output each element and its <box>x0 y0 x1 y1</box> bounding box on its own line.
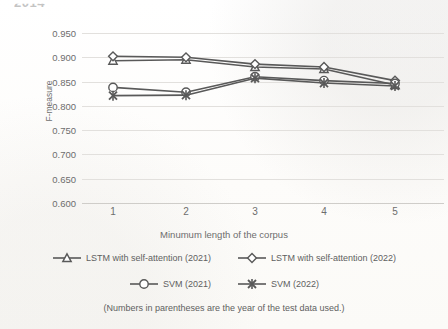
gridline <box>82 82 444 83</box>
circle-marker <box>251 73 259 81</box>
x-axis-tick-label: 3 <box>252 206 258 217</box>
x-axis-tick-label: 1 <box>110 206 116 217</box>
gridline <box>82 57 444 58</box>
gridline <box>82 179 444 180</box>
chart-footnote: (Numbers in parentheses are the year of … <box>0 303 448 313</box>
series-line <box>113 77 395 93</box>
y-axis-tick-label: 0.650 <box>28 173 76 184</box>
legend-row: LSTM with self-attention (2021)LSTM with… <box>0 252 448 264</box>
legend-item-lstm-2021[interactable]: LSTM with self-attention (2021) <box>52 252 211 264</box>
legend-label: LSTM with self-attention (2021) <box>86 254 211 263</box>
line-chart: 2014 F-measure 0.9500.9000.8500.8000.750… <box>0 0 448 329</box>
gridline <box>82 154 444 155</box>
triangle-marker <box>251 63 259 71</box>
x-axis-tick-label: 2 <box>183 206 189 217</box>
y-axis-tick-label: 0.850 <box>28 76 76 87</box>
diamond-marker <box>237 252 267 264</box>
triangle-marker <box>52 252 82 264</box>
circle-marker <box>109 83 117 91</box>
y-axis-tick-label: 0.600 <box>28 198 76 209</box>
series-line <box>113 56 395 80</box>
y-axis-tick-label: 0.900 <box>28 52 76 63</box>
circle-marker <box>140 280 148 288</box>
legend-row: SVM (2021)SVM (2022) <box>0 278 448 290</box>
diamond-marker <box>251 60 260 69</box>
y-axis-tick-label: 0.950 <box>28 28 76 39</box>
circle-marker <box>129 278 159 290</box>
y-axis-tick-label: 0.750 <box>28 125 76 136</box>
legend-item-lstm-2022[interactable]: LSTM with self-attention (2022) <box>237 252 396 264</box>
legend-label: SVM (2022) <box>271 280 319 289</box>
x-marker <box>109 91 117 101</box>
chart-legend: LSTM with self-attention (2021)LSTM with… <box>0 252 448 264</box>
y-axis-tick-label: 0.800 <box>28 100 76 111</box>
series-triangle <box>109 56 399 89</box>
series-circle <box>109 73 399 97</box>
cropped-header-text: 2014 <box>14 0 45 10</box>
y-axis-tick-label: 0.700 <box>28 149 76 160</box>
x-axis-title: Minumum length of the corpus <box>0 229 448 240</box>
gridline <box>82 203 444 204</box>
gridline <box>82 130 444 131</box>
legend-item-svm-2021[interactable]: SVM (2021) <box>129 278 211 290</box>
triangle-marker <box>320 65 328 73</box>
chart-legend-second-row: SVM (2021)SVM (2022) <box>0 278 448 290</box>
x-marker <box>320 78 328 88</box>
gridline <box>82 106 444 107</box>
circle-marker <box>391 79 399 87</box>
x-axis-tick-label: 5 <box>392 206 398 217</box>
x-marker <box>182 90 190 100</box>
legend-item-svm-2022[interactable]: SVM (2022) <box>237 278 319 290</box>
gridline <box>82 33 444 34</box>
x-marker <box>237 278 267 290</box>
diamond-marker <box>248 254 257 263</box>
x-axis-tick-label: 4 <box>321 206 327 217</box>
series-x <box>109 73 399 100</box>
legend-label: SVM (2021) <box>163 280 211 289</box>
circle-marker <box>182 88 190 96</box>
diamond-marker <box>320 63 329 72</box>
legend-label: LSTM with self-attention (2022) <box>271 254 396 263</box>
